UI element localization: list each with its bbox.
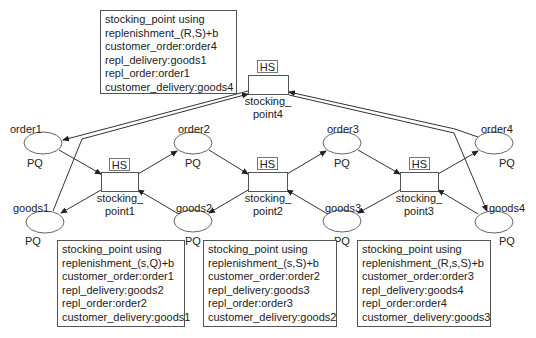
transition-stocking-point4[interactable] bbox=[248, 75, 289, 95]
label-line2: point2 bbox=[238, 205, 298, 218]
place-label-order1: order1 bbox=[10, 123, 42, 135]
label-line1: stocking_ bbox=[238, 95, 298, 108]
info-box-stocking-point1: stocking_point using replenishment_(s,Q)… bbox=[57, 240, 185, 327]
transition-stocking-point2[interactable] bbox=[248, 172, 288, 192]
place-type-goods1: PQ bbox=[25, 235, 41, 247]
info-line: replenishment_(s,Q)+b bbox=[62, 257, 180, 271]
info-line: customer_delivery:goods1 bbox=[62, 311, 180, 325]
info-box-stocking-point2: stocking_point using replenishment_(s,S)… bbox=[203, 240, 337, 327]
info-line: repl_delivery:goods1 bbox=[105, 54, 232, 68]
arc-order2-sp2 bbox=[209, 150, 248, 174]
info-line: customer_order:order4 bbox=[105, 40, 232, 54]
label-line1: stocking_ bbox=[389, 192, 449, 205]
place-label-goods4: goods4 bbox=[489, 202, 525, 214]
hs-tag-sp2: HS bbox=[257, 157, 278, 170]
arc-sp4-goods4 bbox=[289, 95, 487, 211]
hs-tag-sp3: HS bbox=[409, 157, 430, 170]
info-line: customer_order:order2 bbox=[208, 270, 332, 284]
label-line1: stocking_ bbox=[90, 192, 150, 205]
place-label-order3: order3 bbox=[327, 123, 359, 135]
info-line: replenishment_(R,s,S)+b bbox=[362, 257, 486, 271]
arc-sp2-order3 bbox=[287, 151, 326, 174]
place-goods4[interactable] bbox=[475, 211, 513, 233]
label-line1: stocking_ bbox=[238, 192, 298, 205]
place-label-order4: order4 bbox=[481, 123, 513, 135]
place-goods1[interactable] bbox=[26, 211, 64, 233]
info-line: repl_delivery:goods2 bbox=[62, 284, 180, 298]
info-line: customer_order:order1 bbox=[62, 270, 180, 284]
info-line: replenishment_(s,S)+b bbox=[208, 257, 332, 271]
arc-goods1-sp4 bbox=[53, 94, 248, 211]
place-order3[interactable] bbox=[323, 132, 361, 154]
arc-sp1-order2 bbox=[138, 151, 177, 174]
place-type-order3: PQ bbox=[334, 157, 350, 169]
info-line: replenishment_(R,S)+b bbox=[105, 27, 232, 41]
place-order2[interactable] bbox=[174, 132, 212, 154]
info-line: customer_delivery:goods4 bbox=[105, 81, 232, 95]
hs-tag-sp4: HS bbox=[257, 60, 278, 73]
info-line: customer_order:order3 bbox=[362, 270, 486, 284]
info-line: customer_delivery:goods2 bbox=[208, 311, 332, 325]
place-label-goods3: goods3 bbox=[325, 202, 361, 214]
info-line: repl_order:order3 bbox=[208, 297, 332, 311]
info-line: repl_delivery:goods4 bbox=[362, 284, 486, 298]
arc-sp3-order4 bbox=[438, 151, 478, 174]
arc-order4-sp4 bbox=[289, 92, 478, 137]
transition-stocking-point3[interactable] bbox=[400, 172, 439, 192]
hs-tag-sp1: HS bbox=[109, 158, 130, 171]
petri-net-diagram: order1 PQ order2 PQ order3 PQ order4 PQ … bbox=[0, 0, 536, 338]
arc-sp4-order1 bbox=[63, 91, 248, 140]
transition-stocking-point1[interactable] bbox=[101, 172, 139, 192]
arc-order1-sp1 bbox=[59, 150, 101, 174]
place-type-order4: PQ bbox=[499, 157, 515, 169]
label-line2: point3 bbox=[389, 205, 449, 218]
info-line: customer_delivery:goods3 bbox=[362, 311, 486, 325]
place-type-order2: PQ bbox=[185, 157, 201, 169]
place-order1[interactable] bbox=[24, 132, 62, 154]
info-line: stocking_point using bbox=[105, 13, 232, 27]
place-type-goods4: PQ bbox=[499, 235, 515, 247]
info-line: stocking_point using bbox=[62, 243, 180, 257]
label-stocking-point4: stocking_ point4 bbox=[238, 95, 298, 121]
arc-order3-sp3 bbox=[358, 150, 400, 174]
label-stocking-point2: stocking_ point2 bbox=[238, 192, 298, 218]
place-type-order1: PQ bbox=[27, 157, 43, 169]
info-line: repl_order:order1 bbox=[105, 67, 232, 81]
info-box-stocking-point4: stocking_point using replenishment_(R,S)… bbox=[100, 10, 237, 94]
info-line: repl_order:order2 bbox=[62, 297, 180, 311]
info-line: stocking_point using bbox=[362, 243, 486, 257]
place-type-goods2: PQ bbox=[185, 235, 201, 247]
place-label-order2: order2 bbox=[178, 123, 210, 135]
place-order4[interactable] bbox=[475, 132, 513, 154]
info-line: repl_delivery:goods3 bbox=[208, 284, 332, 298]
label-stocking-point3: stocking_ point3 bbox=[389, 192, 449, 218]
info-line: stocking_point using bbox=[208, 243, 332, 257]
label-line2: point4 bbox=[238, 108, 298, 121]
label-line2: point1 bbox=[90, 205, 150, 218]
place-label-goods1: goods1 bbox=[13, 202, 49, 214]
place-label-goods2: goods2 bbox=[176, 202, 212, 214]
info-line: repl_order:order4 bbox=[362, 297, 486, 311]
label-stocking-point1: stocking_ point1 bbox=[90, 192, 150, 218]
info-box-stocking-point3: stocking_point using replenishment_(R,s,… bbox=[357, 240, 491, 327]
